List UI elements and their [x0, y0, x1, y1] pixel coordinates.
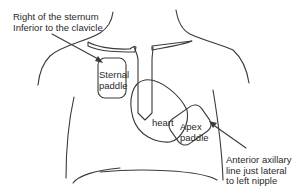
apex-location-label: Anterior axillary line just lateral to l…: [226, 155, 291, 187]
apex-paddle-line-2: paddle: [180, 133, 209, 144]
apex-location-line-3: to left nipple: [226, 176, 291, 187]
sternal-pointer-line: [52, 34, 100, 60]
heart-label: heart: [152, 118, 174, 129]
sternal-paddle-label: Sternal paddle: [99, 70, 129, 91]
apex-paddle-line-1: Apex: [180, 122, 209, 133]
apex-paddle-label: Apex paddle: [180, 122, 209, 143]
heart-text: heart: [152, 118, 174, 129]
sternal-paddle-line-2: paddle: [99, 81, 129, 92]
apex-location-line-1: Anterior axillary: [226, 155, 291, 166]
right-clavicle: [152, 41, 192, 50]
sternal-paddle-line-1: Sternal: [99, 70, 129, 81]
sternal-location-label: Right of the sternum Inferior to the cla…: [13, 12, 103, 33]
sternal-arrowhead-icon: [95, 56, 103, 63]
sternal-location-line-2: Inferior to the clavicle: [13, 23, 103, 34]
right-lower-curve: [100, 170, 217, 180]
sternal-location-line-1: Right of the sternum: [13, 12, 103, 23]
left-clavicle: [88, 42, 136, 52]
right-torso-outline: [213, 90, 223, 180]
neck-right-outline: [176, 10, 249, 83]
left-torso-outline: [66, 97, 74, 178]
apex-pointer-line: [212, 124, 246, 148]
left-lower-curve: [73, 168, 120, 183]
